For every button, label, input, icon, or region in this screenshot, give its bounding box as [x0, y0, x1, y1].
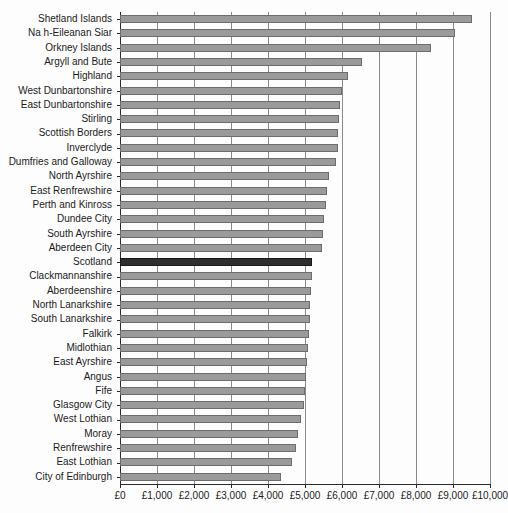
bar-east-renfrewshire[interactable]	[120, 187, 327, 195]
y-tick-label-fife: Fife	[95, 384, 112, 398]
bar-row[interactable]	[120, 241, 490, 255]
y-tick-mark	[117, 248, 120, 249]
y-tick-label-west-lothian: West Lothian	[54, 412, 112, 426]
y-tick-mark	[117, 320, 120, 321]
bar-east-lothian[interactable]	[120, 458, 292, 466]
bar-row[interactable]	[120, 470, 490, 484]
bar-west-lothian[interactable]	[120, 415, 301, 423]
bar-east-ayrshire[interactable]	[120, 358, 307, 366]
x-tick-label-7000: £7,000	[364, 490, 395, 501]
bar-row[interactable]	[120, 98, 490, 112]
y-tick-label-dumfries-and-galloway: Dumfries and Galloway	[9, 155, 112, 169]
bar-glasgow-city[interactable]	[120, 401, 304, 409]
bar-angus[interactable]	[120, 373, 306, 381]
bar-row[interactable]	[120, 26, 490, 40]
bar-moray[interactable]	[120, 430, 298, 438]
bar-north-lanarkshire[interactable]	[120, 301, 310, 309]
bar-row[interactable]	[120, 427, 490, 441]
bar-row[interactable]	[120, 269, 490, 283]
bar-row[interactable]	[120, 255, 490, 269]
y-tick-label-falkirk: Falkirk	[83, 327, 112, 341]
bar-row[interactable]	[120, 412, 490, 426]
y-tick-mark	[117, 305, 120, 306]
y-tick-label-stirling: Stirling	[81, 112, 112, 126]
bar-east-dunbartonshire[interactable]	[120, 101, 340, 109]
y-tick-mark	[117, 348, 120, 349]
bar-row[interactable]	[120, 298, 490, 312]
bar-stirling[interactable]	[120, 115, 339, 123]
bar-row[interactable]	[120, 398, 490, 412]
bar-row[interactable]	[120, 355, 490, 369]
bars-container	[120, 12, 490, 484]
y-tick-label-south-ayrshire: South Ayrshire	[47, 227, 112, 241]
bar-highland[interactable]	[120, 72, 348, 80]
bar-row[interactable]	[120, 327, 490, 341]
bar-argyll-and-bute[interactable]	[120, 58, 362, 66]
y-tick-label-orkney-islands: Orkney Islands	[45, 41, 112, 55]
y-tick-mark	[117, 262, 120, 263]
bar-row[interactable]	[120, 455, 490, 469]
bar-aberdeen-city[interactable]	[120, 244, 322, 252]
y-tick-mark	[117, 76, 120, 77]
bar-perth-and-kinross[interactable]	[120, 201, 326, 209]
bar-row[interactable]	[120, 227, 490, 241]
bar-row[interactable]	[120, 169, 490, 183]
bar-fife[interactable]	[120, 387, 305, 395]
bar-row[interactable]	[120, 12, 490, 26]
y-tick-label-south-lanarkshire: South Lanarkshire	[31, 312, 112, 326]
bar-midlothian[interactable]	[120, 344, 308, 352]
bar-clackmannanshire[interactable]	[120, 272, 312, 280]
bar-row[interactable]	[120, 126, 490, 140]
bar-scottish-borders[interactable]	[120, 129, 338, 137]
bar-na-h-eileanan-siar[interactable]	[120, 29, 455, 37]
bar-west-dunbartonshire[interactable]	[120, 87, 342, 95]
y-tick-mark	[117, 405, 120, 406]
bar-orkney-islands[interactable]	[120, 44, 431, 52]
y-tick-label-east-dunbartonshire: East Dunbartonshire	[21, 98, 112, 112]
bar-row[interactable]	[120, 384, 490, 398]
bar-row[interactable]	[120, 184, 490, 198]
bar-falkirk[interactable]	[120, 330, 309, 338]
y-tick-label-inverclyde: Inverclyde	[66, 141, 112, 155]
bar-renfrewshire[interactable]	[120, 444, 296, 452]
x-tick-label-10000: £10,000	[472, 490, 508, 501]
x-tick-mark	[416, 484, 417, 488]
y-tick-label-moray: Moray	[84, 427, 112, 441]
bar-dumfries-and-galloway[interactable]	[120, 158, 336, 166]
bar-inverclyde[interactable]	[120, 144, 338, 152]
bar-row[interactable]	[120, 155, 490, 169]
y-axis-labels: Shetland IslandsNa h-Eileanan SiarOrkney…	[0, 12, 117, 484]
bar-row[interactable]	[120, 312, 490, 326]
bar-row[interactable]	[120, 41, 490, 55]
bar-shetland-islands[interactable]	[120, 15, 472, 23]
bar-row[interactable]	[120, 55, 490, 69]
bar-row[interactable]	[120, 212, 490, 226]
bar-row[interactable]	[120, 370, 490, 384]
bar-row[interactable]	[120, 198, 490, 212]
y-tick-mark	[117, 162, 120, 163]
x-tick-mark	[194, 484, 195, 488]
bar-row[interactable]	[120, 441, 490, 455]
y-tick-mark	[117, 377, 120, 378]
y-tick-label-north-ayrshire: North Ayrshire	[49, 169, 112, 183]
bar-dundee-city[interactable]	[120, 215, 324, 223]
bar-row[interactable]	[120, 341, 490, 355]
bar-row[interactable]	[120, 141, 490, 155]
y-tick-mark	[117, 191, 120, 192]
x-tick-label-4000: £4,000	[253, 490, 284, 501]
bar-city-of-edinburgh[interactable]	[120, 473, 281, 481]
y-tick-mark	[117, 33, 120, 34]
x-tick-mark	[453, 484, 454, 488]
bar-aberdeenshire[interactable]	[120, 287, 311, 295]
bar-south-lanarkshire[interactable]	[120, 315, 310, 323]
y-tick-label-aberdeen-city: Aberdeen City	[49, 241, 112, 255]
bar-row[interactable]	[120, 284, 490, 298]
bar-row[interactable]	[120, 84, 490, 98]
bar-scotland[interactable]	[120, 258, 312, 266]
bar-row[interactable]	[120, 112, 490, 126]
bar-row[interactable]	[120, 69, 490, 83]
bar-north-ayrshire[interactable]	[120, 172, 329, 180]
y-tick-label-renfrewshire: Renfrewshire	[53, 441, 112, 455]
bar-south-ayrshire[interactable]	[120, 230, 323, 238]
y-tick-mark	[117, 134, 120, 135]
